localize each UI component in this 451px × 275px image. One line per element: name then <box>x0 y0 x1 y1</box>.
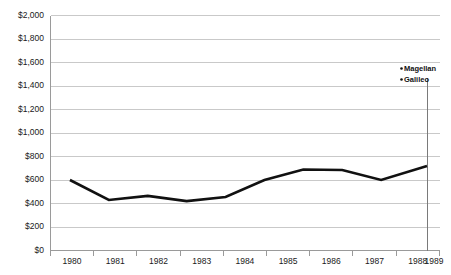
y-tick-label: $2,000 <box>18 10 44 20</box>
y-tick-label: $1,400 <box>18 80 44 90</box>
x-tick-label: 1987 <box>365 256 384 266</box>
y-tick-label: $200 <box>25 221 44 231</box>
chart-container: $2,000 $1,800 $1,600 $1,400 $1,200 $1,00… <box>0 0 451 275</box>
x-tick-label: 1983 <box>192 256 211 266</box>
x-tick-label: 1985 <box>279 256 298 266</box>
annotation-dot-icon <box>400 78 403 81</box>
x-tick-label: 1984 <box>235 256 254 266</box>
x-tick-label: 1982 <box>149 256 168 266</box>
y-tick-label: $1,600 <box>18 57 44 67</box>
y-tick-label: $800 <box>25 151 44 161</box>
annotation-label: Galileo <box>404 75 429 84</box>
x-tick-label: 1980 <box>63 256 82 266</box>
annotation-galileo: Galileo <box>400 75 429 84</box>
x-tick-label: 1986 <box>322 256 341 266</box>
y-tick-label: $1,800 <box>18 33 44 43</box>
annotation-magellan: Magellan <box>400 64 436 73</box>
y-tick-label: $600 <box>25 174 44 184</box>
chart-background <box>0 0 451 275</box>
x-tick-label: 1981 <box>106 256 125 266</box>
x-tick-label: 1989 <box>425 256 444 266</box>
annotation-label: Magellan <box>404 64 437 73</box>
line-chart: $2,000 $1,800 $1,600 $1,400 $1,200 $1,00… <box>0 0 451 275</box>
annotation-dot-icon <box>400 67 403 70</box>
y-tick-label: $1,000 <box>18 127 44 137</box>
y-tick-label: $1,200 <box>18 104 44 114</box>
y-tick-label: $0 <box>35 245 45 255</box>
y-tick-label: $400 <box>25 198 44 208</box>
